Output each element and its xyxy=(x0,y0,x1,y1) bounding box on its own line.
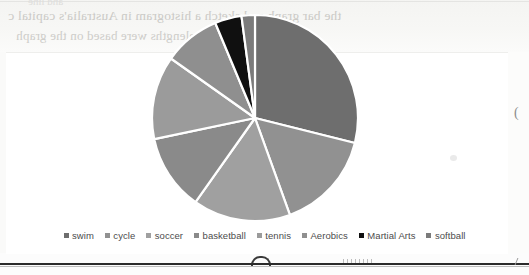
legend-swatch-icon xyxy=(302,233,307,238)
legend-item-label: softball xyxy=(435,231,466,241)
legend-item-label: soccer xyxy=(155,231,183,241)
legend-item-label: tennis xyxy=(265,231,291,241)
page-bottom-rule xyxy=(0,263,529,265)
legend-item: cycle xyxy=(105,231,135,241)
legend-swatch-icon xyxy=(105,233,110,238)
legend-item: Martial Arts xyxy=(359,231,416,241)
page-bottom-rule-soft xyxy=(0,266,529,267)
pie-slices xyxy=(152,15,358,221)
scanned-page: and line the bar graph and sketch a hist… xyxy=(0,0,529,275)
legend-swatch-icon xyxy=(64,233,69,238)
legend-swatch-icon xyxy=(359,233,364,238)
legend-swatch-icon xyxy=(194,233,199,238)
legend-item-label: swim xyxy=(72,231,94,241)
legend-item-label: Aerobics xyxy=(310,231,347,241)
margin-paren-glyph: ( xyxy=(514,106,519,120)
legend-item: swim xyxy=(64,231,94,241)
legend-swatch-icon xyxy=(146,233,151,238)
legend-swatch-icon xyxy=(257,233,262,238)
legend-item: soccer xyxy=(146,231,183,241)
legend-item-label: cycle xyxy=(113,231,135,241)
legend-swatch-icon xyxy=(426,233,431,238)
legend-item: tennis xyxy=(257,231,291,241)
legend-item-label: Martial Arts xyxy=(367,231,415,241)
legend-item: Aerobics xyxy=(302,231,348,241)
scan-smudge xyxy=(450,155,457,161)
legend-item: basketball xyxy=(194,231,246,241)
legend-item: softball xyxy=(426,231,465,241)
legend-item-label: basketball xyxy=(203,231,246,241)
chart-legend: swimcyclesoccerbasketballtennisAerobicsM… xyxy=(0,231,529,241)
